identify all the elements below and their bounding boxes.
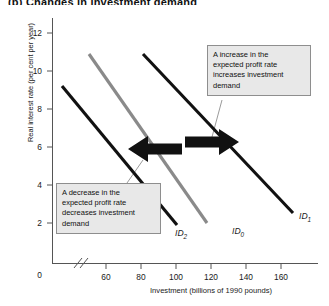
x-tick-label-120: 120 (199, 272, 223, 282)
y-tick-label-2: 2 (24, 218, 42, 228)
curve-label-id1: ID1 (299, 211, 311, 223)
x-tick-label-100: 100 (164, 272, 188, 282)
increase-callout-line-1: A increase in the (213, 50, 305, 60)
investment-demand-figure: (b) Changes in investment demand (0, 0, 329, 306)
increase-callout: A increase in the expected profit rate i… (207, 45, 311, 96)
y-tick-label-0: 0 (24, 270, 42, 280)
y-tick-label-8: 8 (24, 104, 42, 114)
x-tick-label-140: 140 (234, 272, 258, 282)
x-axis-ticks (106, 264, 281, 270)
decrease-callout-line-1: A decrease in the (62, 188, 155, 198)
x-tick-label-160: 160 (269, 272, 293, 282)
decrease-callout-line-4: demand (62, 219, 155, 229)
curve-label-id0-sub: 0 (241, 231, 245, 238)
curve-label-id0: ID0 (232, 226, 244, 238)
y-tick-label-4: 4 (24, 180, 42, 190)
curve-label-id0-text: ID (232, 226, 241, 236)
decrease-callout-line-3: decreases investment (62, 208, 155, 218)
y-tick-label-10: 10 (24, 66, 42, 76)
curve-label-id2-text: ID (175, 228, 184, 238)
increase-callout-line-3: increases investment (213, 70, 305, 80)
curve-label-id1-sub: 1 (308, 216, 312, 223)
left-arrow (128, 136, 182, 162)
decrease-callout: A decrease in the expected profit rate d… (56, 183, 161, 234)
y-tick-label-6: 6 (24, 142, 42, 152)
y-axis-ticks (47, 33, 53, 223)
increase-callout-line-4: demand (213, 81, 305, 91)
x-tick-label-60: 60 (96, 272, 116, 282)
curve-label-id2-sub: 2 (184, 233, 188, 240)
y-tick-label-12: 12 (24, 28, 42, 38)
curve-label-id1-text: ID (299, 211, 308, 221)
increase-callout-line-2: expected profit rate (213, 60, 305, 70)
decrease-callout-line-2: expected profit rate (62, 198, 155, 208)
x-axis-title: Investment (billions of 1990 pounds) (150, 286, 272, 295)
right-arrow (185, 129, 239, 155)
x-tick-label-80: 80 (131, 272, 151, 282)
curve-label-id2: ID2 (175, 228, 187, 240)
